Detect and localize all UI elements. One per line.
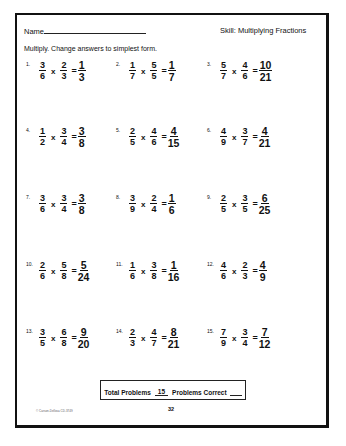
problem-number: 8.: [116, 194, 124, 200]
problem-number: 7.: [26, 194, 34, 200]
fraction-b: 23: [241, 261, 248, 281]
problem-9: 9.25x35=625: [207, 191, 270, 217]
numerator: 5: [80, 260, 88, 272]
problems-correct-blank[interactable]: [230, 389, 242, 396]
numerator: 2: [150, 194, 157, 204]
fraction-a: 16: [129, 261, 136, 281]
multiply-sign: x: [141, 133, 145, 142]
multiply-sign: x: [232, 133, 236, 142]
problem-7: 7.36x34=38: [26, 191, 86, 217]
denominator: 3: [61, 71, 66, 81]
numerator: 2: [39, 261, 46, 271]
answer-fraction: 712: [259, 327, 271, 350]
problem-number: 3.: [207, 61, 215, 67]
multiply-sign: x: [51, 133, 55, 142]
problem-number: 13.: [26, 328, 34, 334]
equals-sign: =: [252, 66, 257, 76]
denominator: 3: [242, 271, 247, 281]
equals-sign: =: [71, 132, 76, 142]
fraction-b: 34: [60, 127, 67, 147]
fraction-a: 39: [129, 194, 136, 214]
answer-fraction: 16: [168, 193, 176, 216]
numerator: 1: [170, 260, 178, 272]
instructions: Multiply. Change answers to simplest for…: [24, 45, 157, 52]
numerator: 10: [259, 60, 273, 72]
denominator: 5: [221, 204, 226, 214]
fraction-a: 26: [39, 261, 46, 281]
denominator: 8: [61, 271, 66, 281]
problem-10: 10.26x58=524: [26, 258, 89, 284]
problem-11: 11.16x38=116: [116, 258, 179, 284]
numerator: 2: [220, 194, 227, 204]
denominator: 12: [259, 338, 271, 349]
numerator: 3: [39, 194, 46, 204]
equals-sign: =: [252, 199, 257, 209]
answer-fraction: 38: [78, 126, 86, 149]
denominator: 5: [151, 71, 156, 81]
numerator: 3: [129, 194, 136, 204]
denominator: 5: [130, 137, 135, 147]
numerator: 3: [78, 126, 86, 138]
score-box: Total Problems 15 Problems Correct: [100, 380, 246, 400]
denominator: 24: [78, 271, 90, 282]
numerator: 7: [261, 327, 269, 339]
problem-number: 6.: [207, 127, 215, 133]
problem-4: 4.12x34=38: [26, 124, 86, 150]
denominator: 7: [221, 71, 226, 81]
answer-fraction: 625: [259, 193, 271, 216]
equals-sign: =: [252, 266, 257, 276]
problem-number: 11.: [116, 261, 124, 267]
equals-sign: =: [71, 266, 76, 276]
fraction-b: 34: [241, 328, 248, 348]
problem-number: 4.: [26, 127, 34, 133]
denominator: 20: [78, 338, 90, 349]
problem-number: 1.: [26, 61, 34, 67]
name-field[interactable]: Name: [24, 26, 146, 36]
multiply-sign: x: [232, 267, 236, 276]
numerator: 3: [78, 193, 86, 205]
equals-sign: =: [71, 333, 76, 343]
problem-number: 5.: [116, 127, 124, 133]
numerator: 3: [60, 194, 67, 204]
denominator: 6: [242, 71, 247, 81]
page-number: 32: [168, 406, 174, 412]
denominator: 9: [260, 271, 266, 282]
problems-correct-label: Problems Correct: [172, 389, 227, 396]
fraction-b: 34: [60, 194, 67, 214]
numerator: 4: [170, 126, 178, 138]
answer-fraction: 524: [78, 260, 90, 283]
name-blank-line[interactable]: [44, 26, 146, 34]
denominator: 25: [259, 204, 271, 215]
denominator: 4: [242, 338, 247, 348]
multiply-sign: x: [232, 67, 236, 76]
problem-14: 14.23x47=821: [116, 325, 179, 351]
fraction-b: 58: [60, 261, 67, 281]
denominator: 2: [40, 137, 45, 147]
fraction-a: 12: [39, 127, 46, 147]
denominator: 4: [61, 204, 66, 214]
fraction-b: 47: [150, 328, 157, 348]
problem-number: 12.: [207, 261, 215, 267]
numerator: 1: [129, 61, 136, 71]
denominator: 8: [61, 338, 66, 348]
equals-sign: =: [252, 132, 257, 142]
numerator: 3: [241, 328, 248, 338]
answer-fraction: 920: [78, 327, 90, 350]
problem-13: 13.35x68=920: [26, 325, 89, 351]
fraction-a: 36: [39, 61, 46, 81]
answer-fraction: 38: [78, 193, 86, 216]
denominator: 8: [151, 271, 156, 281]
denominator: 9: [221, 137, 226, 147]
multiply-sign: x: [51, 67, 55, 76]
equals-sign: =: [252, 333, 257, 343]
denominator: 9: [130, 204, 135, 214]
problem-15: 15.79x34=712: [207, 325, 270, 351]
fraction-b: 55: [150, 61, 157, 81]
denominator: 6: [221, 271, 226, 281]
denominator: 7: [242, 137, 247, 147]
numerator: 2: [241, 261, 248, 271]
fraction-b: 46: [150, 127, 157, 147]
denominator: 5: [40, 338, 45, 348]
fraction-a: 79: [220, 328, 227, 348]
answer-fraction: 49: [259, 260, 267, 283]
